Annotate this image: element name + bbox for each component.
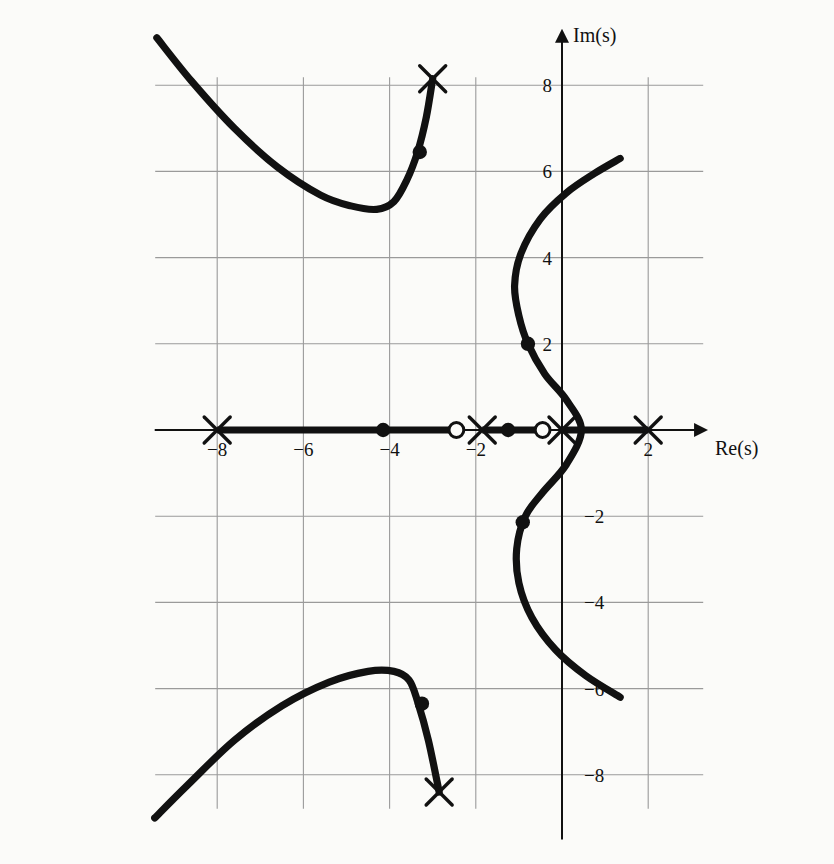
y-tick-label: 4	[543, 248, 553, 269]
gain-point-marker	[516, 515, 530, 529]
root-locus-svg: −8−6−4−228642−2−4−6−8 Re(s)Im(s)	[0, 0, 834, 864]
gain-point-marker	[413, 145, 427, 159]
y-tick-label: −2	[584, 506, 604, 527]
gain-point-marker	[501, 423, 515, 437]
x-tick-label: 2	[643, 439, 653, 460]
axis-layer	[155, 31, 706, 839]
zero-marker-o	[449, 423, 464, 438]
y-tick-label: 6	[543, 161, 553, 182]
gain-point-marker	[376, 423, 390, 437]
x-tick-label: −4	[379, 439, 400, 460]
x-tick-label: −6	[293, 439, 313, 460]
x-tick-label: −8	[207, 439, 227, 460]
x-axis-title: Re(s)	[715, 437, 758, 460]
root-locus-figure: −8−6−4−228642−2−4−6−8 Re(s)Im(s)	[0, 0, 834, 864]
y-tick-label: −4	[584, 592, 605, 613]
y-tick-label: 8	[543, 75, 553, 96]
y-axis-title: Im(s)	[573, 24, 616, 47]
zero-marker-o	[535, 423, 550, 438]
locus-branch	[155, 670, 439, 818]
gain-point-marker	[415, 696, 429, 710]
locus-branch	[157, 38, 433, 210]
axis-title-layer: Re(s)Im(s)	[573, 24, 758, 460]
gain-point-marker	[521, 337, 535, 351]
y-tick-label: −8	[584, 765, 604, 786]
y-tick-label: 2	[543, 334, 553, 355]
